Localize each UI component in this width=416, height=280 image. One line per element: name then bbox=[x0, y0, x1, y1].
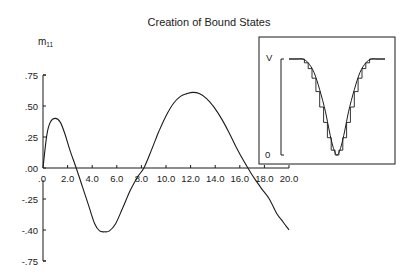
m11-curve bbox=[43, 92, 289, 231]
inset-label-v: V bbox=[266, 52, 273, 63]
y-tick-label: .25 bbox=[25, 132, 38, 143]
x-tick-label: 16.0 bbox=[231, 173, 250, 184]
y-tick-labels: .75.50.25.00-.25-.40-.75 bbox=[22, 70, 46, 267]
x-tick-label: 2.0 bbox=[61, 173, 74, 184]
y-axis-label: m11 bbox=[38, 36, 53, 48]
x-tick-label: 14.0 bbox=[206, 173, 225, 184]
x-tick-label: 4.0 bbox=[86, 173, 99, 184]
inset-potential-well: V 0 bbox=[259, 37, 395, 164]
x-tick-label: 10.0 bbox=[157, 173, 176, 184]
x-tick-label: 20.0 bbox=[280, 173, 299, 184]
y-tick-label: .50 bbox=[25, 101, 38, 112]
y-tick-label: -.75 bbox=[22, 256, 38, 267]
inset-frame bbox=[259, 37, 395, 164]
y-axis-lower bbox=[43, 180, 46, 261]
chart-title: Creation of Bound States bbox=[148, 16, 271, 28]
y-tick-label: .00 bbox=[25, 163, 38, 174]
y-tick-label: .75 bbox=[25, 70, 38, 81]
y-axis-label-base: m bbox=[38, 36, 46, 47]
x-tick-label: 12.0 bbox=[181, 173, 200, 184]
x-tick-label: .0 bbox=[38, 173, 46, 184]
chart-canvas: Creation of Bound States m11 .75.50.25.0… bbox=[0, 0, 416, 280]
y-tick-label: -.40 bbox=[22, 225, 38, 236]
x-tick-label: 6.0 bbox=[110, 173, 123, 184]
x-tick-label: 18.0 bbox=[255, 173, 274, 184]
y-axis-label-subscript: 11 bbox=[46, 41, 53, 48]
inset-label-zero: 0 bbox=[265, 149, 270, 160]
y-tick-label: -.25 bbox=[22, 194, 38, 205]
